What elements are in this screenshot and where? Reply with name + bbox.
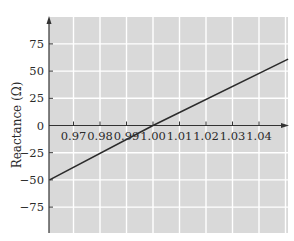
x-tick-label: 1.01 bbox=[167, 129, 193, 143]
y-axis-title: Reactance (Ω) bbox=[10, 82, 24, 169]
y-axis-ticks: 7550250−25−50−75 bbox=[20, 37, 53, 214]
reactance-chart: 0.970.980.991.001.011.021.031.04 7550250… bbox=[0, 0, 294, 241]
y-tick-label: 25 bbox=[29, 91, 44, 105]
y-tick-label: 50 bbox=[29, 64, 44, 78]
y-tick-label: 0 bbox=[37, 119, 44, 133]
y-tick-label: 75 bbox=[29, 37, 44, 51]
x-tick-label: 1.04 bbox=[246, 129, 272, 143]
y-tick-label: −75 bbox=[20, 200, 44, 214]
x-tick-label: 1.03 bbox=[220, 129, 246, 143]
x-tick-label: 0.97 bbox=[61, 129, 87, 143]
x-tick-label: 0.98 bbox=[87, 129, 113, 143]
y-tick-label: −50 bbox=[20, 173, 44, 187]
x-tick-label: 1.02 bbox=[193, 129, 219, 143]
